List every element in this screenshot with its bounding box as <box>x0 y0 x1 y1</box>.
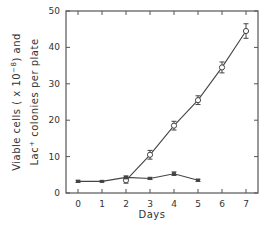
x-tick-label: 6 <box>219 199 225 209</box>
open-circle-marker <box>147 152 152 157</box>
x-axis-ticks: 01234567 <box>75 11 249 209</box>
filled-square-marker <box>196 179 200 182</box>
x-tick-label: 7 <box>243 199 249 209</box>
x-tick-label: 1 <box>99 199 105 209</box>
y-tick-label: 40 <box>49 42 61 52</box>
x-tick-label: 2 <box>123 199 129 209</box>
y-axis-label-main: Viable cells ( x 10−8) and <box>10 33 22 171</box>
plot-border <box>66 11 258 193</box>
y-tick-label: 30 <box>49 79 61 89</box>
filled-square-marker <box>76 180 80 183</box>
y-tick-label: 20 <box>49 115 61 125</box>
data-series <box>76 24 249 183</box>
filled-square-marker <box>172 172 176 175</box>
filled-square-marker <box>124 176 128 179</box>
chart: 01020304050 01234567 Days Viable cells (… <box>0 0 268 227</box>
plot-frame <box>66 11 258 193</box>
series-lac-colonies <box>123 24 248 183</box>
x-tick-label: 4 <box>171 199 177 209</box>
series-viable-cells <box>76 172 201 183</box>
y-axis-ticks: 01020304050 <box>49 6 258 198</box>
open-circle-marker <box>243 28 248 33</box>
filled-square-marker <box>100 180 104 183</box>
x-axis-label: Days <box>139 209 166 220</box>
open-circle-marker <box>195 98 200 103</box>
y-tick-label: 50 <box>49 6 61 16</box>
x-tick-label: 0 <box>75 199 81 209</box>
open-circle-marker <box>171 123 176 128</box>
y-tick-label: 10 <box>49 152 61 162</box>
open-circle-marker <box>219 65 224 70</box>
y-axis-label-sub: Lac+ colonies per plate <box>28 38 40 165</box>
x-tick-label: 3 <box>147 199 153 209</box>
filled-square-marker <box>148 177 152 180</box>
y-tick-label: 0 <box>54 188 60 198</box>
x-tick-label: 5 <box>195 199 201 209</box>
